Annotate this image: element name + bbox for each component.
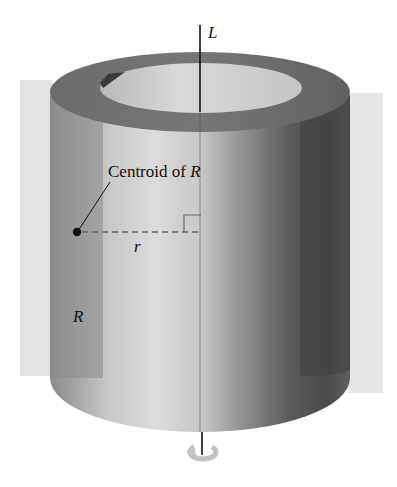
- plane-right: [348, 93, 383, 393]
- inner-hole: [100, 63, 302, 113]
- centroid-label: Centroid of R: [108, 162, 201, 181]
- centroid-dot: [73, 228, 81, 236]
- plane-left: [20, 80, 52, 376]
- rotation-arrow-icon: [186, 444, 216, 459]
- pappus-figure: L Centroid of R r R: [0, 0, 397, 487]
- inner-wall-shadow: [300, 95, 350, 376]
- distance-label: r: [134, 237, 141, 256]
- axis-label: L: [207, 23, 217, 42]
- region-label: R: [72, 307, 84, 326]
